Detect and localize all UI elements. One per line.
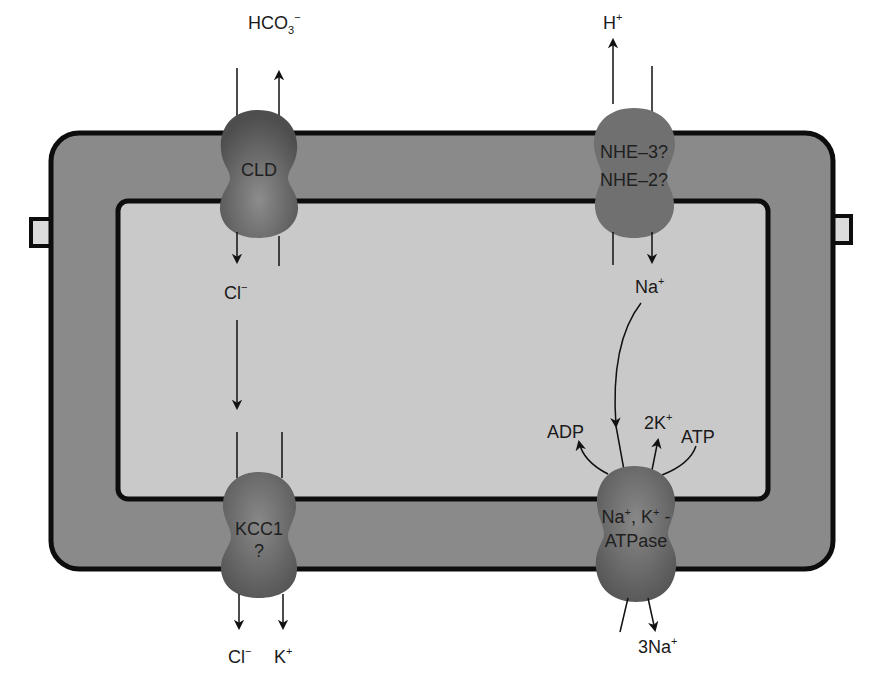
atpase-line2: ATPase [588, 529, 684, 553]
hco3-label: HCO3− [248, 14, 301, 32]
cld-label: CLD [229, 160, 289, 182]
tight-junction-left [31, 219, 51, 246]
na-inside-label: Na+ [635, 278, 664, 296]
adp-label: ADP [547, 423, 584, 441]
three-na-label: 3Na+ [638, 638, 677, 656]
cl-out-label: Cl− [228, 648, 251, 666]
nhe2-text: NHE–2? [594, 166, 674, 194]
cl-inside-label: Cl− [224, 284, 247, 302]
two-k-label: 2K+ [644, 414, 672, 432]
h-plus-label: H+ [603, 14, 622, 32]
k-out-label: K+ [274, 648, 292, 666]
kcc1-text: KCC1 [226, 518, 292, 540]
atpase-label: Na+, K+ - ATPase [588, 505, 684, 553]
epithelial-cell-diagram [0, 0, 881, 690]
nhe-label: NHE–3? NHE–2? [594, 138, 674, 194]
atpase-line1: Na+, K+ - [588, 505, 684, 529]
nhe3-text: NHE–3? [594, 138, 674, 166]
kcc1-question-text: ? [226, 540, 292, 562]
atp-label: ATP [681, 428, 715, 446]
kcc1-label: KCC1 ? [226, 518, 292, 562]
cell-cytoplasm [118, 201, 768, 499]
cld-text: CLD [241, 160, 277, 180]
